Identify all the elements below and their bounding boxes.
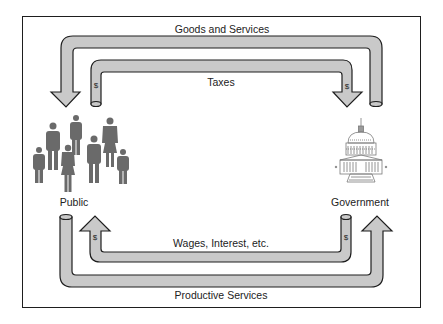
dollar-sign-wages-right: $	[344, 233, 349, 242]
dollar-sign-taxes-right: $	[345, 82, 350, 91]
dollar-sign-wages-left: $	[93, 233, 98, 242]
dollar-sign-taxes-left: $	[94, 81, 99, 90]
circular-flow-diagram: $ $ $ $	[0, 0, 443, 324]
taxes-label: Taxes	[207, 76, 234, 88]
government-label: Government	[331, 196, 389, 208]
public-label: Public	[60, 196, 89, 208]
goods-services-label: Goods and Services	[175, 23, 270, 35]
public-people-icon	[33, 115, 129, 192]
productive-services-label: Productive Services	[175, 289, 268, 301]
wages-label: Wages, Interest, etc.	[173, 237, 269, 249]
capitol-building-icon	[335, 118, 387, 182]
